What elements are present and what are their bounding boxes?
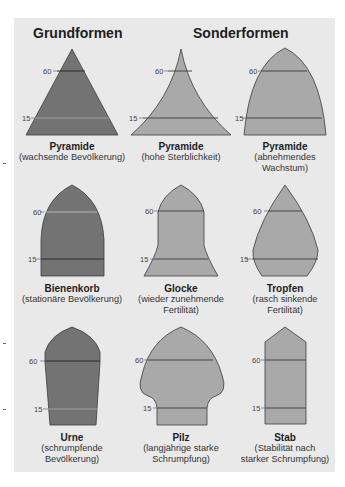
caption-title: Stab [230, 432, 340, 443]
shape-pilz: 60 15 [135, 327, 224, 425]
shape-urne: 60 15 [29, 327, 100, 425]
svg-text:60: 60 [252, 356, 260, 365]
svg-text:15: 15 [143, 404, 151, 413]
age-label-60: 60 [43, 67, 51, 76]
svg-text:15: 15 [252, 404, 260, 413]
svg-text:15: 15 [140, 255, 148, 264]
caption-desc: Bevölkerung) [45, 454, 99, 464]
caption-desc: Fertilität) [267, 305, 303, 315]
caption-title: Urne [17, 432, 127, 443]
svg-text:15: 15 [28, 255, 36, 264]
shape-pyramide-abnehmend: 60 15 [235, 48, 326, 135]
caption-tropfen: Tropfen (rasch sinkende Fertilität) [230, 283, 340, 316]
caption-desc: Schrumpfung) [152, 454, 210, 464]
svg-text:60: 60 [135, 356, 143, 365]
shape-pyramide-sterblichkeit: 60 15 [129, 49, 231, 135]
caption-title: Bienenkorb [17, 283, 127, 294]
caption-pyramide-abnehmend: Pyramide (abnehmendes Wachstum) [230, 141, 340, 174]
caption-bienenkorb: Bienenkorb (stationäre Bevölkerung) [17, 283, 127, 305]
shape-bienenkorb: 60 15 [28, 185, 104, 276]
caption-pyramide-wachsend: Pyramide (wachsende Bevölkerung) [17, 141, 127, 163]
caption-desc: (abnehmendes [254, 152, 315, 162]
caption-desc: (rasch sinkende [253, 294, 318, 304]
caption-desc: (schrumpfende [41, 443, 102, 453]
caption-pilz: Pilz (langjährige starke Schrumpfung) [126, 432, 236, 465]
svg-text:15: 15 [129, 114, 137, 123]
svg-text:15: 15 [240, 255, 248, 264]
shape-stab: 60 15 [252, 327, 306, 424]
caption-title: Pyramide [126, 141, 236, 152]
caption-desc: (langjährige starke [143, 443, 219, 453]
caption-title: Pyramide [17, 141, 127, 152]
caption-desc: starker Schrumpfung) [241, 454, 329, 464]
caption-desc: Wachstum) [262, 163, 308, 173]
caption-urne: Urne (schrumpfende Bevölkerung) [17, 432, 127, 465]
caption-desc: Fertilität) [163, 305, 199, 315]
margin-mark [3, 409, 6, 410]
caption-desc: (stationäre Bevölkerung) [22, 294, 122, 304]
age-label-15: 15 [22, 114, 30, 123]
caption-title: Pilz [126, 432, 236, 443]
population-shapes: 60 15 60 15 60 15 60 [0, 0, 345, 487]
caption-title: Pyramide [230, 141, 340, 152]
caption-pyramide-sterblichkeit: Pyramide (hohe Sterblichkeit) [126, 141, 236, 163]
caption-desc: (hohe Sterblichkeit) [141, 152, 220, 162]
caption-desc: (wachsende Bevölkerung) [19, 152, 125, 162]
caption-stab: Stab (Stabilität nach starker Schrumpfun… [230, 432, 340, 465]
caption-glocke: Glocke (wieder zunehmende Fertilität) [126, 283, 236, 316]
svg-text:15: 15 [235, 114, 243, 123]
svg-text:60: 60 [145, 207, 153, 216]
svg-text:15: 15 [34, 405, 42, 414]
svg-text:60: 60 [249, 67, 257, 76]
caption-title: Tropfen [230, 283, 340, 294]
svg-text:60: 60 [29, 357, 37, 366]
shape-pyramide-wachsend: 60 15 [22, 49, 118, 135]
svg-text:60: 60 [253, 207, 261, 216]
margin-mark [3, 343, 6, 344]
caption-desc: (Stabilität nach [255, 443, 316, 453]
caption-desc: (wieder zunehmende [138, 294, 224, 304]
svg-text:60: 60 [33, 208, 41, 217]
shape-tropfen: 60 15 [240, 185, 318, 276]
margin-mark [3, 163, 6, 164]
caption-title: Glocke [126, 283, 236, 294]
svg-text:60: 60 [155, 67, 163, 76]
shape-glocke: 60 15 [140, 185, 218, 276]
